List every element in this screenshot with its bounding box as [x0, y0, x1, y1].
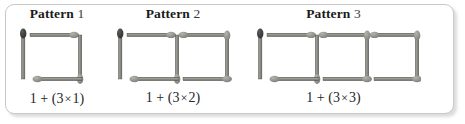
pattern-group-3: Pattern 3: [246, 0, 421, 124]
equation-close-3: ): [356, 90, 361, 105]
matchstick-vertical-lead: [117, 29, 123, 80]
matchstick-bottom-2: [183, 76, 232, 82]
matchstick-right-1: [174, 35, 180, 84]
matchstick-pattern-figure: Pattern 1: [0, 0, 465, 124]
pattern-equation-2: 1 + (3×2): [112, 90, 234, 106]
matchstick-right-1: [77, 35, 83, 84]
matchstick-bottom-1: [130, 76, 180, 82]
equation-close-1: ): [79, 91, 84, 106]
matchstick-right-2: [224, 31, 230, 81]
matchstick-bottom-2: [323, 76, 372, 82]
equation-lead-2: 1 + (3: [146, 90, 180, 105]
matchstick-right-3: [414, 31, 420, 81]
matchstick-vertical-lead: [20, 29, 26, 80]
matchstick-top-1: [127, 32, 176, 38]
pattern-group-2: Pattern 2: [112, 0, 234, 124]
matchstick-bottom-1: [33, 76, 83, 82]
pattern-equation-3: 1 + (3×3): [246, 90, 421, 106]
multiplication-sign-3: ×: [340, 91, 349, 105]
pattern-equation-1: 1 + (3×1): [2, 91, 112, 107]
matchstick-right-1: [314, 35, 320, 84]
matchstick-top-3: [370, 32, 419, 38]
matchstick-bottom-1: [270, 76, 320, 82]
equation-lead-1: 1 + (3: [30, 91, 64, 106]
matchstick-right-2: [364, 31, 370, 81]
matchstick-top-1: [267, 32, 316, 38]
equation-multiplier-3: 3: [349, 90, 356, 105]
equation-lead-3: 1 + (3: [306, 90, 340, 105]
matchstick-vertical-lead: [257, 29, 263, 80]
matchstick-top-1: [30, 32, 79, 38]
equation-close-2: ): [195, 90, 200, 105]
matchstick-bottom-3: [374, 76, 421, 82]
matchstick-top-2: [179, 32, 229, 38]
pattern-group-1: Pattern 1: [2, 0, 112, 124]
matchstick-top-2: [319, 32, 369, 38]
